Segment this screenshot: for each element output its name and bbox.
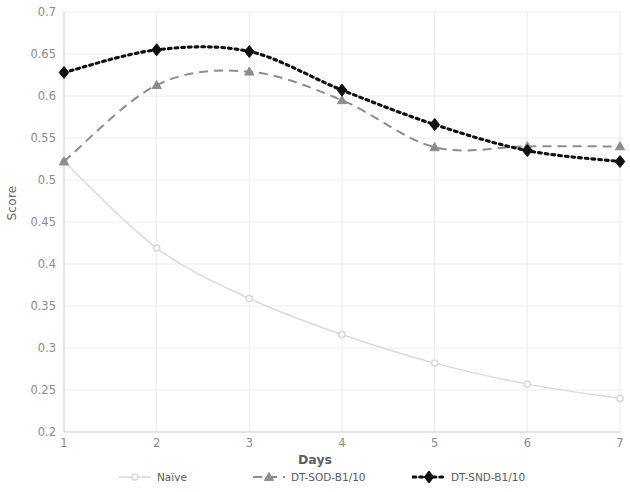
plot-area xyxy=(0,0,630,492)
x-tick-label: 4 xyxy=(338,436,345,450)
data-point-marker xyxy=(245,45,255,57)
legend-label: DT-SOD-B1/10 xyxy=(291,472,366,483)
data-point-marker xyxy=(424,471,434,483)
data-point-marker xyxy=(430,119,440,131)
y-tick-label: 0.65 xyxy=(16,47,56,61)
y-tick-label: 0.3 xyxy=(16,341,56,355)
y-tick-label: 0.7 xyxy=(16,5,56,19)
y-tick-label: 0.6 xyxy=(16,89,56,103)
legend-swatch xyxy=(252,470,286,484)
x-tick-label: 5 xyxy=(431,436,438,450)
legend-label: Naïve xyxy=(157,472,187,483)
x-tick-label: 3 xyxy=(246,436,253,450)
x-tick-label: 2 xyxy=(153,436,160,450)
y-tick-label: 0.35 xyxy=(16,299,56,313)
x-tick-label: 1 xyxy=(60,436,67,450)
legend-label: DT-SND-B1/10 xyxy=(451,472,525,483)
legend-swatch xyxy=(118,470,152,484)
legend-swatch xyxy=(412,470,446,484)
data-point-marker xyxy=(432,360,438,366)
data-point-marker xyxy=(337,84,347,96)
y-tick-label: 0.45 xyxy=(16,215,56,229)
data-point-marker xyxy=(339,332,345,338)
line-chart: Score Days 0.20.250.30.350.40.450.50.550… xyxy=(0,0,630,492)
x-tick-label: 7 xyxy=(616,436,623,450)
y-tick-label: 0.55 xyxy=(16,131,56,145)
y-tick-label: 0.25 xyxy=(16,383,56,397)
data-point-marker xyxy=(617,395,623,401)
data-point-marker xyxy=(59,66,69,78)
chart-legend: NaïveDT-SOD-B1/10DT-SND-B1/10 xyxy=(0,470,630,492)
data-point-marker xyxy=(524,381,530,387)
data-point-marker xyxy=(154,245,160,251)
legend-item-3[interactable]: DT-SND-B1/10 xyxy=(412,470,525,484)
y-tick-label: 0.2 xyxy=(16,425,56,439)
data-point-marker xyxy=(132,474,138,480)
x-tick-label: 6 xyxy=(524,436,531,450)
data-point-marker xyxy=(246,295,252,301)
y-tick-label: 0.5 xyxy=(16,173,56,187)
y-tick-label: 0.4 xyxy=(16,257,56,271)
legend-item-2[interactable]: DT-SOD-B1/10 xyxy=(252,470,366,484)
legend-item-1[interactable]: Naïve xyxy=(118,470,187,484)
y-axis-ticks: 0.20.250.30.350.40.450.50.550.60.650.7 xyxy=(0,0,56,492)
x-axis-label: Days xyxy=(0,452,630,467)
data-point-marker xyxy=(615,142,624,150)
data-point-marker xyxy=(615,156,625,168)
